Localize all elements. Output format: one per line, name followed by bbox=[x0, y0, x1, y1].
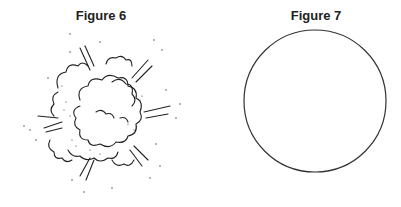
explosion-debris-dots bbox=[23, 33, 180, 192]
figure-7-circle bbox=[244, 30, 386, 172]
figures-canvas bbox=[0, 0, 401, 207]
explosion-illustration bbox=[38, 46, 170, 180]
